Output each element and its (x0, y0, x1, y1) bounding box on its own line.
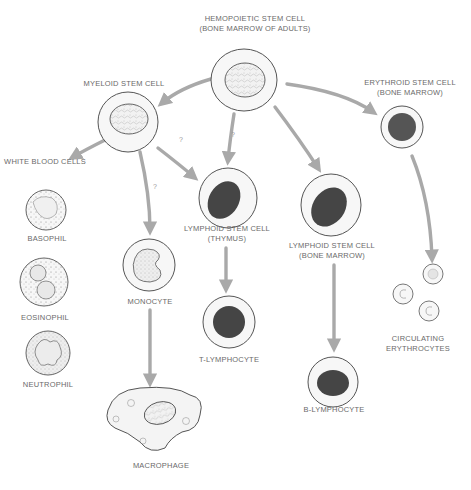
label-line: (BONE MARROW OF ADULTS) (199, 24, 310, 34)
label-line: HEMOPOIETIC STEM CELL (199, 14, 310, 24)
cell-basophil (26, 190, 66, 230)
label-hemopoietic: HEMOPOIETIC STEM CELL (BONE MARROW OF AD… (199, 14, 310, 34)
arrow-myeloid-to-wbc (73, 140, 105, 157)
cell-myeloid-stem (98, 92, 158, 152)
label-line: (BONE MARROW) (364, 88, 456, 98)
label-line: LYMPHOID STEM CELL (289, 241, 375, 251)
arrow-myeloid-to-monocyte (140, 152, 150, 230)
label-line: MYELOID STEM CELL (84, 79, 165, 89)
cell-lymphoid-thymus (199, 168, 257, 228)
label-lymphoid-bone-marrow: LYMPHOID STEM CELL (BONE MARROW) (289, 241, 375, 261)
label-neutrophil: NEUTROPHIL (23, 380, 73, 390)
question-mark: ? (231, 131, 235, 138)
cell-lineage-diagram: ? ? ? (0, 0, 471, 490)
label-line: (THYMUS) (184, 234, 270, 244)
label-line: (BONE MARROW) (289, 251, 375, 261)
label-line: ERYTHROID STEM CELL (364, 78, 456, 88)
question-mark: ? (179, 136, 183, 143)
question-mark: ? (153, 183, 157, 190)
cell-eosinophil (20, 258, 68, 306)
arrow-erythroid-to-erythrocytes (412, 156, 432, 258)
label-b-lymphocyte: B-LYMPHOCYTE (303, 405, 364, 415)
cell-t-lymphocyte (203, 296, 255, 348)
label-myeloid: MYELOID STEM CELL (84, 79, 165, 89)
cell-b-lymphocyte (308, 357, 358, 407)
cell-lymphoid-bone-marrow (301, 174, 361, 236)
label-line: MACROPHAGE (133, 461, 189, 471)
cell-neutrophil (26, 331, 70, 375)
label-line: WHITE BLOOD CELLS (4, 157, 86, 167)
label-erythrocytes: CIRCULATING ERYTHROCYTES (386, 334, 450, 354)
label-line: ERYTHROCYTES (386, 344, 450, 354)
label-line: CIRCULATING (386, 334, 450, 344)
label-macrophage: MACROPHAGE (133, 461, 189, 471)
label-line: NEUTROPHIL (23, 380, 73, 390)
label-lymphoid-thymus: LYMPHOID STEM CELL (THYMUS) (184, 224, 270, 244)
arrow-hemopoietic-to-myeloid (162, 79, 211, 103)
label-line: MONOCYTE (128, 297, 173, 307)
label-eosinophil: EOSINOPHIL (21, 313, 69, 323)
label-basophil: BASOPHIL (27, 234, 66, 244)
label-line: LYMPHOID STEM CELL (184, 224, 270, 234)
label-line: T-LYMPHOCYTE (199, 355, 259, 365)
label-line: EOSINOPHIL (21, 313, 69, 323)
label-line: BASOPHIL (27, 234, 66, 244)
cell-hemopoietic-stem (211, 49, 277, 111)
arrow-hemopoietic-to-erythroid (287, 84, 373, 112)
cell-macrophage (107, 387, 201, 450)
label-line: B-LYMPHOCYTE (303, 405, 364, 415)
label-white-blood-cells: WHITE BLOOD CELLS (4, 157, 86, 167)
arrow-myeloid-to-lymphoid-thymus (158, 148, 194, 177)
cell-erythroid-stem (381, 106, 423, 148)
cell-erythrocytes (393, 264, 443, 321)
arrow-hemopoietic-to-lymphoid-bm (275, 107, 318, 168)
label-t-lymphocyte: T-LYMPHOCYTE (199, 355, 259, 365)
label-erythroid: ERYTHROID STEM CELL (BONE MARROW) (364, 78, 456, 98)
label-monocyte: MONOCYTE (128, 297, 173, 307)
cell-monocyte (123, 239, 175, 291)
